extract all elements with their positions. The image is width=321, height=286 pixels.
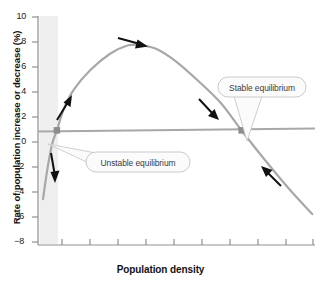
unstable-callout-label: Unstable equilibrium	[100, 158, 175, 168]
arrow-up-above-unstable-icon	[57, 95, 72, 120]
stable-equilibrium-callout: Stable equilibrium	[218, 77, 306, 141]
x-axis-tick-marks	[62, 239, 313, 245]
zero-growth-reference-line	[38, 129, 315, 132]
x-axis-title: Population density	[0, 264, 321, 275]
y-axis-title: Rate of population increase or decrease …	[11, 8, 22, 248]
arrow-down-right-toward-stable-icon	[199, 99, 219, 120]
unstable-equilibrium-marker	[54, 127, 61, 134]
y-axis-tick-marks	[32, 17, 38, 242]
stable-callout-pointer	[234, 96, 262, 141]
unstable-equilibrium-callout: Unstable equilibrium	[48, 144, 190, 172]
chart-plot-area: Unstable equilibrium Stable equilibrium	[0, 0, 321, 286]
population-density-chart: Unstable equilibrium Stable equilibrium	[0, 0, 321, 286]
stable-callout-label: Stable equilibrium	[229, 83, 295, 93]
